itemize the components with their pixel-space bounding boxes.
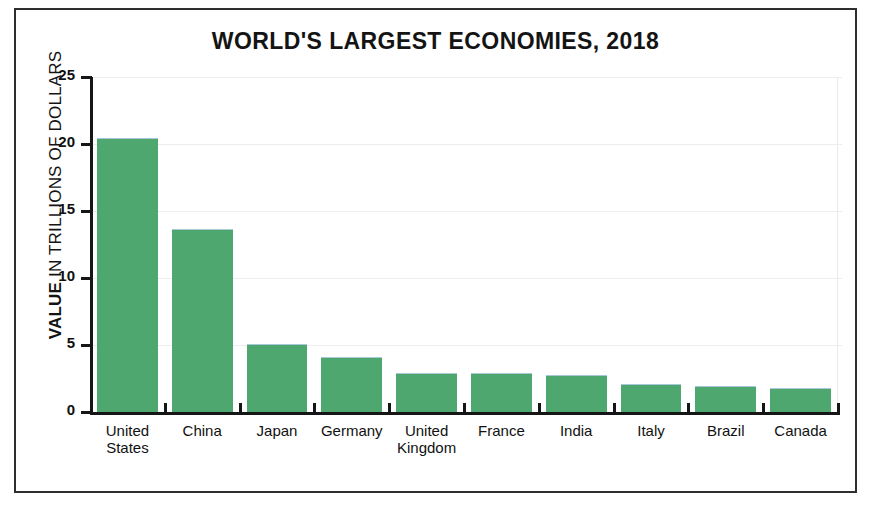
y-tick-label-10: 10 [58,267,75,284]
x-tick [164,403,167,415]
bar [172,229,233,412]
gridline-20 [90,144,842,145]
y-tick-20: 20 [81,143,92,146]
x-tick [388,403,391,415]
y-tick-label-15: 15 [58,200,75,217]
x-tick [239,403,242,415]
x-tick [687,403,690,415]
edge-credit-text [840,337,854,487]
bar [695,386,756,412]
x-axis-label: United Kingdom [389,422,464,456]
bar [621,384,682,412]
gridline-15 [90,211,842,212]
y-axis-title-strong: VALUE [46,282,65,339]
x-axis-label: Brazil [688,422,763,439]
bar [247,344,308,412]
x-axis-label: China [165,422,240,439]
x-axis-label: Germany [314,422,389,439]
x-tick [762,403,765,415]
x-axis-label: Canada [763,422,838,439]
y-tick-5: 5 [81,344,92,347]
y-tick-label-25: 25 [58,66,75,83]
bar [546,375,607,412]
bar [471,373,532,412]
y-tick-15: 15 [81,210,92,213]
gridline-25 [90,77,842,78]
bar [321,357,382,412]
x-axis-label: India [539,422,614,439]
x-axis-label: France [464,422,539,439]
x-axis-label: United States [90,422,165,456]
x-tick [613,403,616,415]
y-tick-label-5: 5 [67,334,75,351]
figure-frame: WORLD'S LARGEST ECONOMIES, 2018 VALUE IN… [14,8,857,493]
x-axis-label: Italy [614,422,689,439]
y-tick-label-0: 0 [67,401,75,418]
x-tick [538,403,541,415]
x-tick [313,403,316,415]
bar [770,388,831,412]
y-tick-0: 0 [81,411,92,414]
bar [97,138,158,412]
plot-container: 0510152025 United StatesChinaJapanGerman… [90,70,842,420]
y-tick-25: 25 [81,76,92,79]
chart-title: WORLD'S LARGEST ECONOMIES, 2018 [16,28,855,55]
y-axis-line [90,77,93,413]
bar [396,373,457,412]
y-axis-title-rest: IN TRILLIONS OF DOLLARS [46,51,65,282]
y-tick-label-20: 20 [58,133,75,150]
y-tick-10: 10 [81,277,92,280]
x-tick [463,403,466,415]
x-axis-label: Japan [240,422,315,439]
